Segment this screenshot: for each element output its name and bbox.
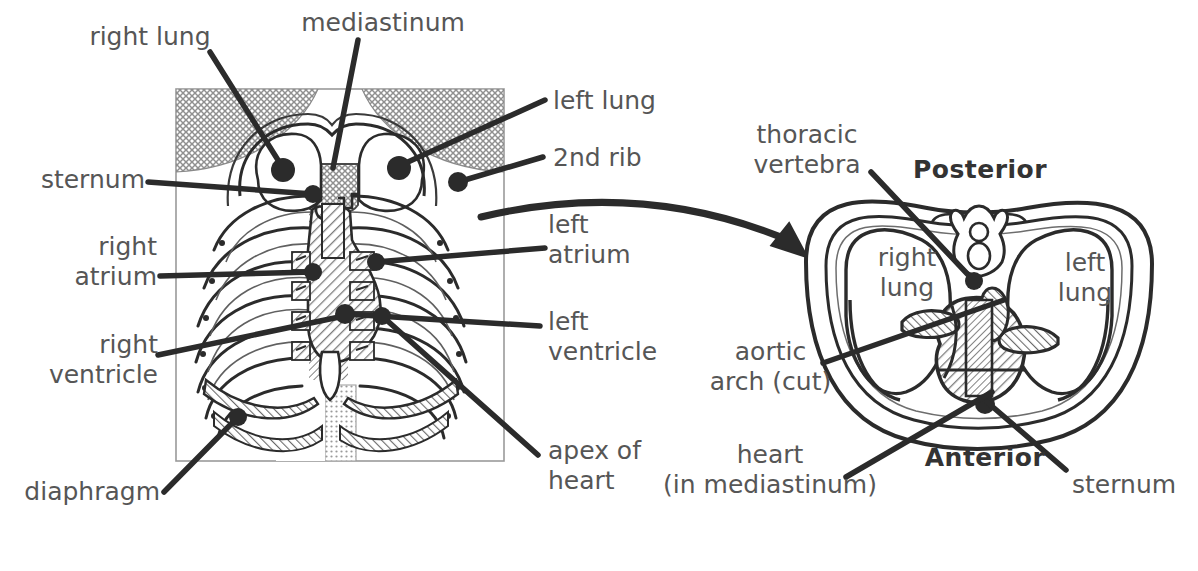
label-sternum-right: sternum bbox=[1072, 470, 1197, 500]
dot-ventricles bbox=[335, 304, 355, 324]
label-mediastinum: mediastinum bbox=[283, 8, 483, 38]
label-sternum-left: sternum bbox=[20, 165, 145, 195]
label-right-atrium: right atrium bbox=[22, 232, 157, 292]
dot-2nd-rib bbox=[448, 172, 468, 192]
label-anterior: Anterior bbox=[910, 443, 1060, 473]
dot-apex bbox=[373, 307, 391, 325]
label-aortic-arch-cut: aortic arch (cut) bbox=[688, 337, 853, 397]
dot-sternum-left bbox=[304, 185, 322, 203]
dot-right-lung bbox=[271, 158, 295, 182]
label-right-lung-inner: right lung bbox=[862, 243, 952, 303]
label-left-atrium: left atrium bbox=[548, 210, 658, 270]
dot-right-atrium bbox=[304, 263, 322, 281]
label-right-lung: right lung bbox=[80, 22, 220, 52]
label-left-lung: left lung bbox=[553, 86, 683, 116]
label-posterior: Posterior bbox=[900, 155, 1060, 185]
label-thoracic-vertebra: thoracic vertebra bbox=[737, 120, 877, 180]
label-right-ventricle: right ventricle bbox=[18, 330, 158, 390]
label-left-lung-inner: left lung bbox=[1040, 248, 1130, 308]
dot-thoracic-vertebra bbox=[965, 272, 983, 290]
sternum-body bbox=[322, 204, 344, 258]
dot-left-lung bbox=[387, 156, 411, 180]
transverse-section-group bbox=[806, 202, 1152, 449]
xiphoid-process bbox=[320, 352, 340, 400]
label-heart-in-mediastinum: heart (in mediastinum) bbox=[640, 440, 900, 500]
label-left-ventricle: left ventricle bbox=[548, 307, 678, 367]
dot-diaphragm bbox=[229, 408, 247, 426]
label-diaphragm: diaphragm bbox=[10, 477, 160, 507]
label-2nd-rib: 2nd rib bbox=[553, 143, 673, 173]
dot-left-atrium bbox=[367, 253, 385, 271]
